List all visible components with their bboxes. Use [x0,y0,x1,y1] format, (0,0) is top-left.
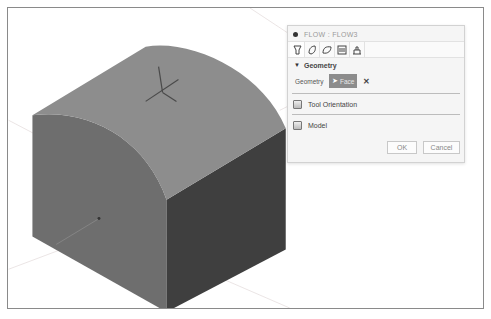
flow-dialog: FLOW : FLOW3 ▼ Geometry Geometry ➤ Face … [287,25,465,163]
passes-icon [337,45,347,55]
tab-linking[interactable] [350,42,365,57]
dialog-toolbar [288,41,464,58]
cursor-arrow-icon: ➤ [332,77,338,85]
collapse-triangle-icon: ▼ [294,62,300,68]
face-icon [322,45,332,55]
tab-passes[interactable] [335,42,350,57]
face-selection-chip[interactable]: ➤ Face [329,74,357,88]
surface-icon [307,45,317,55]
geometry-field-label: Geometry [295,78,329,85]
tab-geometry[interactable] [305,42,320,57]
tab-face[interactable] [320,42,335,57]
geometry-section-header[interactable]: ▼ Geometry [288,58,464,72]
tool-orientation-checkbox[interactable] [293,100,302,109]
clear-selection-button[interactable]: ✕ [363,77,370,86]
dialog-buttons: OK Cancel [288,135,464,154]
cancel-button[interactable]: Cancel [423,141,460,154]
ok-button[interactable]: OK [387,141,417,154]
tool-icon [293,45,302,55]
tool-orientation-toggle[interactable]: Tool Orientation [288,94,464,114]
dialog-title: FLOW : FLOW3 [304,31,358,38]
model-checkbox[interactable] [293,121,302,130]
model-toggle[interactable]: Model [288,115,464,135]
linking-icon [352,45,362,55]
tab-tool[interactable] [290,42,305,57]
status-dot-icon [293,32,298,37]
geometry-row: Geometry ➤ Face ✕ [288,72,464,90]
dialog-title-bar[interactable]: FLOW : FLOW3 [288,26,464,41]
